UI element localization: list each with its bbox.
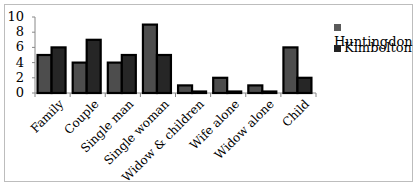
bar-huntingdon bbox=[213, 78, 227, 93]
y-tick-label: 2 bbox=[4, 71, 24, 84]
bar-kimbolton bbox=[297, 78, 311, 93]
bar-kimbolton bbox=[192, 92, 206, 94]
bar-huntingdon bbox=[283, 47, 297, 93]
bar-huntingdon bbox=[38, 55, 52, 93]
y-tick-label: 8 bbox=[4, 25, 24, 38]
bar-huntingdon bbox=[143, 25, 157, 93]
bar-kimbolton bbox=[157, 55, 171, 93]
bar-kimbolton bbox=[52, 47, 66, 93]
bar-huntingdon bbox=[108, 63, 122, 93]
legend-swatch-huntingdon bbox=[334, 24, 341, 31]
legend-item-kimbolton: Kimbolton bbox=[334, 40, 412, 55]
y-tick-label: 4 bbox=[4, 56, 24, 69]
bar-kimbolton bbox=[262, 92, 276, 94]
bar-huntingdon bbox=[248, 85, 262, 93]
bar-kimbolton bbox=[122, 55, 136, 93]
legend-swatch-kimbolton bbox=[334, 45, 341, 52]
y-tick-label: 0 bbox=[4, 86, 24, 99]
bar-kimbolton bbox=[227, 92, 241, 94]
bar-huntingdon bbox=[73, 63, 87, 93]
y-tick-label: 6 bbox=[4, 40, 24, 53]
bar-huntingdon bbox=[178, 85, 192, 93]
legend-label-kimbolton: Kimbolton bbox=[344, 40, 412, 55]
y-tick-label: 10 bbox=[4, 10, 24, 23]
bar-kimbolton bbox=[87, 40, 101, 93]
